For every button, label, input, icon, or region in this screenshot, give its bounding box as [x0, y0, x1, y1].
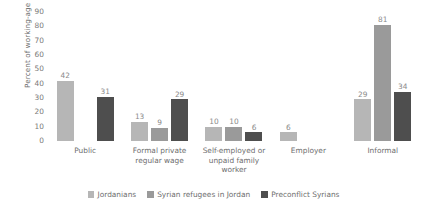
x-axis-label: Employer: [271, 146, 345, 156]
y-axis-tick: 30: [35, 94, 44, 101]
y-axis-tick: 60: [35, 51, 44, 58]
bar[interactable]: 13: [131, 122, 148, 141]
legend-swatch-icon: [147, 191, 154, 198]
bar-slot: 10: [205, 12, 222, 141]
y-axis-tick: 10: [35, 123, 44, 130]
legend-swatch-icon: [261, 191, 268, 198]
legend-label: Preconflict Syrians: [271, 191, 339, 198]
bar-value-label: 10: [229, 118, 238, 125]
bar[interactable]: 29: [354, 99, 371, 141]
bar[interactable]: 6: [280, 132, 297, 141]
bar[interactable]: 29: [171, 99, 188, 141]
bar-value-label: 29: [358, 91, 367, 98]
bar-value-label: 34: [398, 83, 407, 90]
x-axis-label: Formal privateregular wage: [122, 146, 196, 165]
bar-slot: 6: [280, 12, 297, 141]
y-axis-tick: 20: [35, 109, 44, 116]
legend-swatch-icon: [88, 191, 95, 198]
bar-group: 10106: [197, 12, 271, 141]
x-axis-label: Public: [48, 146, 122, 156]
bar[interactable]: 10: [205, 127, 222, 141]
bar-group: 13929: [122, 12, 196, 141]
bar-value-label: 31: [100, 88, 109, 95]
y-axis-tick-labels: 9080706050403020100: [22, 12, 44, 141]
bar-chart: Percent of working-age population 908070…: [0, 0, 427, 213]
bar-group: 298134: [346, 12, 420, 141]
y-axis-tick: 80: [35, 23, 44, 30]
bar-slot: [77, 12, 94, 141]
legend-item[interactable]: Preconflict Syrians: [261, 191, 339, 198]
bar-slot: 31: [97, 12, 114, 141]
bar-slot: 13: [131, 12, 148, 141]
x-axis-label: Self-employed orunpaid familyworker: [197, 146, 271, 175]
bar-value-label: 42: [60, 72, 69, 79]
legend-label: Syrian refugees in Jordan: [157, 191, 250, 198]
x-axis-label-line: unpaid family: [197, 156, 271, 166]
bar[interactable]: 42: [57, 81, 74, 141]
bar-value-label: 9: [157, 119, 162, 126]
bar-group: 6: [271, 12, 345, 141]
x-axis-category-labels: PublicFormal privateregular wageSelf-emp…: [48, 146, 420, 186]
bar-value-label: 81: [378, 16, 387, 23]
bar-value-label: 6: [252, 124, 257, 131]
bar[interactable]: 9: [151, 128, 168, 141]
x-axis-label-line: Self-employed or: [197, 146, 271, 156]
bar[interactable]: 10: [225, 127, 242, 141]
bar-group: 4231: [48, 12, 122, 141]
bar-slot: 9: [151, 12, 168, 141]
x-axis-label-line: Employer: [271, 146, 345, 156]
legend-item[interactable]: Syrian refugees in Jordan: [147, 191, 250, 198]
plot-area: 423113929101066298134: [48, 12, 420, 141]
bar-slot: 6: [245, 12, 262, 141]
bar-value-label: 6: [286, 124, 291, 131]
bar-slot: 29: [171, 12, 188, 141]
legend-label: Jordanians: [98, 191, 137, 198]
y-axis-tick: 90: [35, 8, 44, 15]
x-axis-label-line: Informal: [346, 146, 420, 156]
bar-slot: 34: [394, 12, 411, 141]
bar-slot: [300, 12, 317, 141]
bar-slot: 10: [225, 12, 242, 141]
y-axis-tick: 0: [39, 137, 44, 144]
bar-slot: 42: [57, 12, 74, 141]
bar[interactable]: 6: [245, 132, 262, 141]
y-axis-tick: 40: [35, 80, 44, 87]
bar-value-label: 13: [135, 113, 144, 120]
x-axis-label-line: Formal private: [122, 146, 196, 156]
y-axis-tick: 50: [35, 66, 44, 73]
x-axis-label-line: worker: [197, 165, 271, 175]
x-axis-label-line: Public: [48, 146, 122, 156]
chart-legend: JordaniansSyrian refugees in JordanPreco…: [0, 191, 427, 198]
legend-item[interactable]: Jordanians: [88, 191, 137, 198]
bar[interactable]: 81: [374, 25, 391, 141]
x-axis-label-line: regular wage: [122, 156, 196, 166]
y-axis-tick: 70: [35, 37, 44, 44]
bar-slot: 29: [354, 12, 371, 141]
bar-slot: [320, 12, 337, 141]
x-axis-label: Informal: [346, 146, 420, 156]
bar[interactable]: 31: [97, 97, 114, 141]
bar-slot: 81: [374, 12, 391, 141]
bar-value-label: 29: [175, 91, 184, 98]
bar-value-label: 10: [209, 118, 218, 125]
bar[interactable]: 34: [394, 92, 411, 141]
